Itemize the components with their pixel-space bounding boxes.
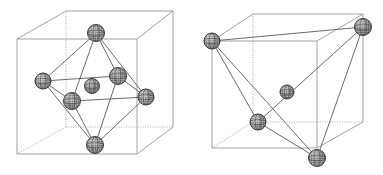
atom-center <box>280 85 294 99</box>
atom-face-top <box>88 25 105 42</box>
atom-corner-back-bottom-left <box>250 114 266 130</box>
octahedron-edge <box>72 97 146 101</box>
tetrahedron-edge <box>212 27 363 41</box>
atom-face-left <box>35 73 51 89</box>
crystal-structure-figure <box>0 0 383 175</box>
atom-center <box>85 79 100 94</box>
atom-corner-back-top-right <box>355 19 372 36</box>
atom-corner-front-top-left <box>204 33 220 49</box>
tetrahedron-edge <box>212 41 258 122</box>
diagram-canvas <box>0 0 383 175</box>
cube-edge <box>137 127 173 154</box>
tetrahedron-edge <box>212 41 317 158</box>
octahedron-edge <box>96 33 146 97</box>
panel-left-octahedral <box>17 11 173 154</box>
cube-edge <box>317 122 363 148</box>
cube-edge-hidden <box>17 127 66 154</box>
octahedron-edge <box>43 33 96 81</box>
atom-face-front <box>64 93 81 110</box>
tetrahedron-edge <box>317 27 363 158</box>
atom-face-back <box>110 68 127 85</box>
atom-face-bottom <box>87 137 104 154</box>
tetrahedron-edge <box>258 122 317 158</box>
cube-edge <box>17 11 66 39</box>
atom-corner-front-bottom-right <box>309 150 326 167</box>
panel-right-tetrahedral <box>204 14 372 167</box>
cube-edge-hidden <box>212 122 253 148</box>
cube-edge <box>137 11 173 39</box>
atom-face-right <box>138 89 154 105</box>
